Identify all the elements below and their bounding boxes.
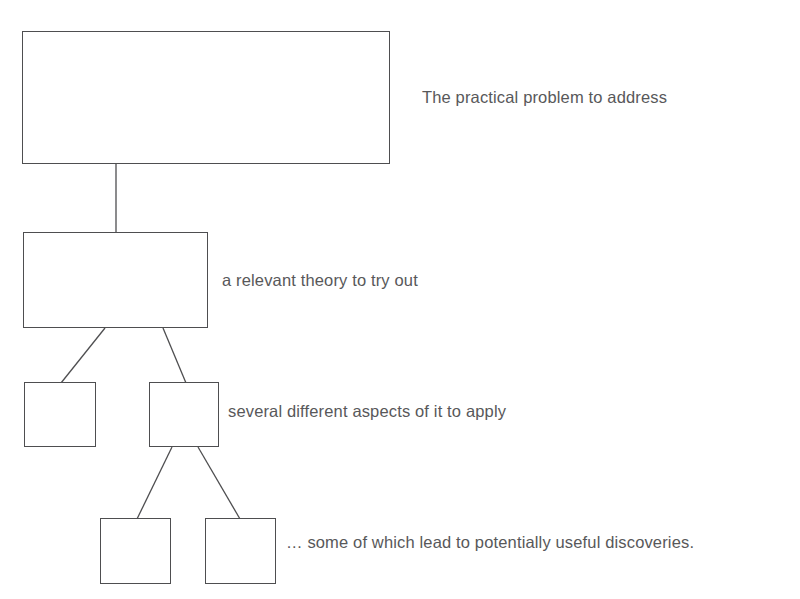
node-box-root[interactable] bbox=[22, 31, 390, 164]
edge-aspect-2-to-discovery-2 bbox=[198, 447, 240, 519]
annotation-discoveries: … some of which lead to potentially usef… bbox=[286, 534, 694, 551]
annotation-aspects: several different aspects of it to apply bbox=[228, 403, 506, 420]
edge-theory-to-aspect-1 bbox=[61, 328, 105, 383]
annotation-theory: a relevant theory to try out bbox=[222, 272, 418, 289]
edge-theory-to-aspect-2 bbox=[163, 328, 186, 383]
node-box-aspect-2[interactable] bbox=[149, 382, 219, 447]
node-box-theory[interactable] bbox=[23, 232, 208, 328]
edge-aspect-2-to-discovery-1 bbox=[137, 447, 172, 519]
node-box-discovery-2[interactable] bbox=[205, 518, 276, 584]
node-box-aspect-1[interactable] bbox=[24, 382, 96, 447]
node-box-discovery-1[interactable] bbox=[100, 518, 171, 584]
diagram-canvas: The practical problem to address a relev… bbox=[0, 0, 800, 599]
annotation-root: The practical problem to address bbox=[422, 89, 667, 106]
